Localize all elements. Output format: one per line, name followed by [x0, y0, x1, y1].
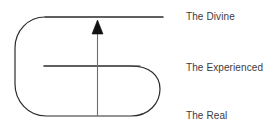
label-the-divine: The Divine	[186, 11, 235, 23]
label-the-experienced: The Experienced	[186, 62, 263, 74]
diagram-canvas: The Divine The Experienced The Real	[0, 0, 267, 131]
label-the-real: The Real	[186, 110, 227, 122]
ascending-arrow-head	[92, 20, 103, 34]
